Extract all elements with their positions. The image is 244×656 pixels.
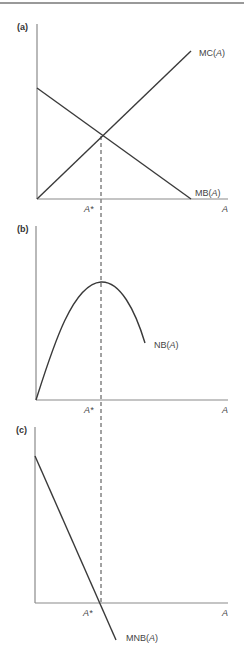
panel-b-label: (b) [17,224,29,234]
mc-curve-label: MC(A) [199,48,225,58]
panel-a-label: (a) [17,22,28,32]
panel-b: (b) NB(A) A* A [17,224,228,415]
mnb-curve [35,456,116,640]
panel-a: (a) MC(A) MB(A) A* A [17,22,228,214]
economics-figure: (a) MC(A) MB(A) A* A (b) NB(A) A* A (c) … [0,0,244,656]
panel-c: (c) MNB(A) A* A [16,425,228,643]
nb-curve-label: NB(A) [154,340,179,350]
panel-c-label: (c) [16,425,27,435]
panel-a-x-axis-label: A [221,204,228,214]
panel-c-x-axis-label: A [221,608,228,618]
panel-b-a-star-label: A* [83,405,94,415]
mnb-curve-label: MNB(A) [126,633,158,643]
panel-a-a-star-label: A* [83,204,94,214]
mc-curve [37,51,191,199]
mb-curve-label: MB(A) [195,188,221,198]
nb-curve [36,282,145,400]
mb-curve [37,88,191,199]
panel-b-x-axis-label: A [221,405,228,415]
panel-c-a-star-label: A* [82,608,93,618]
